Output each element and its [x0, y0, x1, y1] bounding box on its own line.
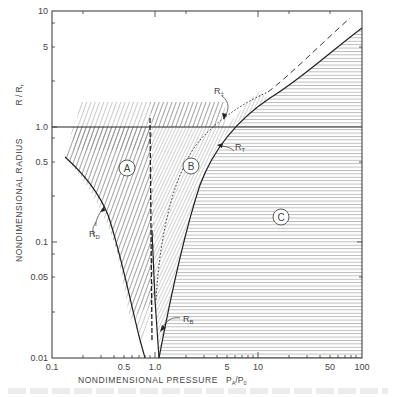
y-axis-title: NONDIMENSIONAL RADIUS	[14, 138, 24, 262]
x-axis-symbol: PA/P0	[226, 375, 246, 386]
y-tick-label: 0.1	[35, 237, 48, 247]
svg-text:R‡: R‡	[214, 86, 224, 97]
x-tick-label: 0.1	[46, 362, 59, 372]
x-tick-label: 0.5	[118, 362, 131, 372]
svg-text:B: B	[188, 161, 195, 172]
annotation-rd: RD	[89, 206, 105, 240]
faint-caption-line	[8, 388, 388, 394]
svg-text:C: C	[277, 212, 284, 223]
y-tick-label: 0.05	[30, 272, 48, 282]
y-tick-label: 10	[38, 6, 48, 16]
x-tick-label: 10	[253, 362, 263, 372]
x-tick-label: 1.0	[149, 362, 162, 372]
x-tick-label: 100	[354, 362, 369, 372]
region-label-a: A	[119, 160, 135, 176]
y-tick-label: 5	[43, 42, 48, 52]
y-tick-label: 1.0	[35, 122, 48, 132]
svg-text:A: A	[124, 163, 131, 174]
region-label-b: B	[183, 158, 199, 174]
phase-diagram-chart: 0.1 0.5 1.0 5 10 50 100 0.01 0.05 0.1 0.…	[0, 0, 395, 397]
x-tick-label: 5	[224, 362, 229, 372]
svg-text:RD: RD	[89, 229, 101, 240]
y-tick-label: 0.01	[30, 353, 48, 363]
region-a-main-fill	[65, 127, 155, 345]
y-tick-label: 0.5	[35, 157, 48, 167]
x-tick-label: 50	[325, 362, 335, 372]
y-axis-symbol: R / Rr	[14, 84, 25, 105]
x-axis-title: NONDIMENSIONAL PRESSURE	[78, 375, 218, 385]
region-label-c: C	[273, 209, 289, 225]
